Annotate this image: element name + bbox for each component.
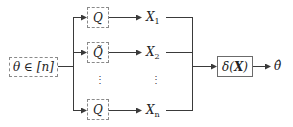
- channel-box-n: Q: [87, 99, 109, 120]
- channel-box-2: Q̃: [87, 42, 109, 63]
- output-ellipsis: ⋮: [151, 78, 157, 82]
- estimate-output-label: θ̂: [274, 59, 281, 73]
- channel-label-2: Q̃: [93, 46, 103, 60]
- estimator-box: δ(X): [217, 56, 253, 77]
- channel-box-1: Q: [87, 7, 109, 28]
- output-x1: X1: [146, 10, 160, 29]
- output-xn: Xn: [146, 103, 160, 122]
- channel-label-n: Q: [93, 103, 103, 117]
- channel-ellipsis: ⋮: [95, 78, 101, 82]
- output-x2: X2: [146, 45, 160, 64]
- input-parameter-label: θ ∈ [n]: [13, 60, 54, 74]
- channel-label-1: Q: [93, 11, 103, 25]
- input-parameter-box: θ ∈ [n]: [9, 57, 58, 77]
- diagram-canvas: θ ∈ [n] Q Q̃ ⋮ Q X1 X2 ⋮ Xn δ(X) θ̂: [0, 0, 293, 127]
- estimator-label: δ(X): [222, 60, 248, 74]
